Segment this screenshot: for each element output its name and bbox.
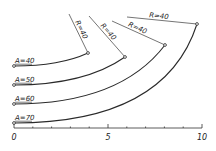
- end-point: [164, 44, 167, 47]
- end-point: [87, 52, 90, 55]
- radius-label: R=40: [73, 19, 89, 41]
- curve-a-40: A=40R=40: [13, 14, 90, 67]
- start-point: [13, 65, 16, 68]
- axis-tick-label: 5: [105, 133, 110, 142]
- param-a-label: A=40: [14, 57, 35, 65]
- param-a-label: A=50: [14, 76, 35, 84]
- scale-axis: 0510: [11, 124, 207, 142]
- curves-group: A=40R=40A=50R=40A=60R=40A=70R=40: [13, 11, 199, 124]
- start-point: [13, 103, 16, 106]
- axis-tick-label: 0: [11, 133, 16, 142]
- end-point: [196, 23, 199, 26]
- transition-curve-diagram: A=40R=40A=50R=40A=60R=40A=70R=40 0510: [0, 0, 216, 151]
- start-point: [13, 84, 16, 87]
- param-a-label: A=60: [14, 95, 35, 103]
- curve-a-60: A=60R=40: [13, 20, 167, 105]
- start-point: [13, 122, 16, 125]
- axis-tick-label: 10: [197, 133, 207, 142]
- curve-path: [14, 24, 197, 123]
- radius-label: R=40: [127, 20, 149, 36]
- param-a-label: A=70: [14, 114, 35, 122]
- radius-label: R=40: [99, 22, 118, 42]
- curve-a-50: A=50R=40: [13, 16, 127, 86]
- end-point: [124, 56, 127, 59]
